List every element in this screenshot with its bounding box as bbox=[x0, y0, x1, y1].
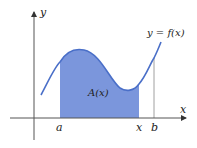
x-axis-label: x bbox=[180, 103, 187, 116]
area-label: A(x) bbox=[87, 87, 109, 98]
area-function-diagram: y x y = f(x) A(x) a x b bbox=[0, 0, 197, 148]
curve-label: y = f(x) bbox=[146, 27, 185, 38]
tick-label-b: b bbox=[151, 121, 158, 134]
tick-label-a: a bbox=[56, 121, 63, 134]
y-axis-label: y bbox=[39, 6, 47, 19]
tick-label-x: x bbox=[136, 121, 143, 134]
